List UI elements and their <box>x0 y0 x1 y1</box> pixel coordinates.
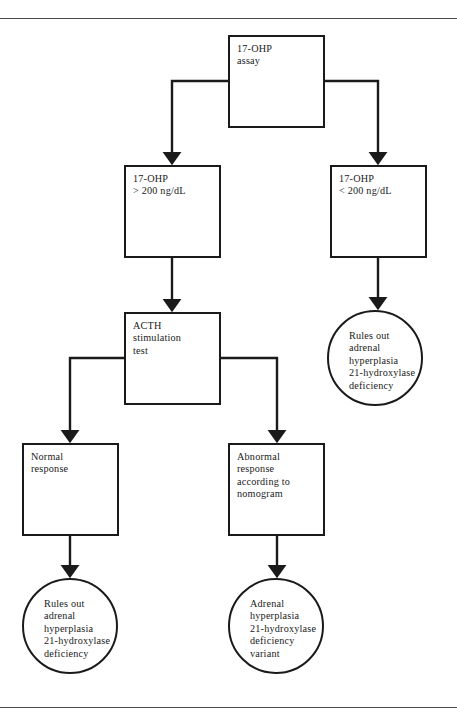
node-label-17-ohp-high: 17-OHP > 200 ng/dL <box>133 173 186 198</box>
node-17-ohp-low: 17-OHP < 200 ng/dL <box>330 165 427 258</box>
node-acth-stimulation-test: ACTH stimulation test <box>124 312 221 405</box>
node-17-ohp-assay: 17-OHP assay <box>228 35 325 128</box>
top-horizontal-rule <box>0 18 457 19</box>
connector-acth-to-normal <box>70 358 124 436</box>
flowchart-figure: 17-OHP assay 17-OHP > 200 ng/dL 17-OHP <… <box>0 0 457 722</box>
node-rules-out-left: Rules out adrenal hyperplasia 21-hydroxy… <box>22 578 118 674</box>
node-adrenal-hyperplasia-variant: Adrenal hyperplasia 21-hydroxylase defic… <box>228 578 324 674</box>
node-label-acth-stimulation-test: ACTH stimulation test <box>133 320 181 357</box>
node-label-normal-response: Normal response <box>31 451 68 476</box>
node-abnormal-response: Abnormal response according to nomogram <box>228 443 325 536</box>
node-label-rules-out-left: Rules out adrenal hyperplasia 21-hydroxy… <box>44 598 110 660</box>
node-17-ohp-high: 17-OHP > 200 ng/dL <box>124 165 221 258</box>
node-normal-response: Normal response <box>22 443 119 536</box>
node-label-abnormal-response: Abnormal response according to nomogram <box>237 451 290 501</box>
node-label-adrenal-hyperplasia-variant: Adrenal hyperplasia 21-hydroxylase defic… <box>250 598 316 660</box>
node-label-17-ohp-assay: 17-OHP assay <box>237 43 272 68</box>
node-label-rules-out-right: Rules out adrenal hyperplasia 21-hydroxy… <box>349 330 415 392</box>
node-label-17-ohp-low: 17-OHP < 200 ng/dL <box>339 173 392 198</box>
connector-assay-to-low <box>325 81 378 158</box>
node-rules-out-right: Rules out adrenal hyperplasia 21-hydroxy… <box>327 310 423 406</box>
connector-acth-to-abnormal <box>221 358 277 436</box>
bottom-horizontal-rule <box>0 707 457 708</box>
connector-assay-to-high <box>172 81 228 158</box>
